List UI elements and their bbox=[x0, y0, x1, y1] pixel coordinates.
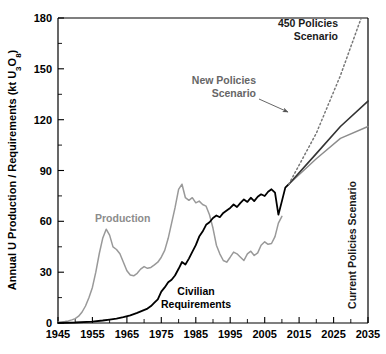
x-tick-label-1965: 1965 bbox=[115, 328, 139, 340]
uranium-production-requirements-chart: 0 30 60 90 120 150 180 bbox=[0, 0, 386, 354]
y-tick-label-60: 60 bbox=[40, 215, 52, 227]
y-tick-label-90: 90 bbox=[40, 165, 52, 177]
y-axis-title-paren: ) bbox=[6, 49, 18, 53]
x-tick-label-2015: 2015 bbox=[287, 328, 311, 340]
y-tick-label-120: 120 bbox=[34, 114, 52, 126]
label-450-policies-line1: 450 Policies bbox=[278, 17, 338, 29]
x-tick-label-1955: 1955 bbox=[80, 328, 104, 340]
y-tick-label-150: 150 bbox=[34, 63, 52, 75]
x-tick-label-1995: 1995 bbox=[218, 328, 242, 340]
x-tick-label-1985: 1985 bbox=[184, 328, 208, 340]
x-tick-label-2025: 2025 bbox=[321, 328, 345, 340]
chart-container: 0 30 60 90 120 150 180 bbox=[0, 0, 386, 354]
label-current-policies-text: Current Policies Scenario bbox=[346, 181, 358, 309]
label-civilian-line1: Civilian bbox=[177, 285, 214, 297]
label-new-policies-line1: New Policies bbox=[192, 74, 256, 86]
label-new-policies-line2: Scenario bbox=[212, 87, 256, 99]
x-tick-label-1975: 1975 bbox=[149, 328, 173, 340]
label-450-policies-line2: Scenario bbox=[294, 30, 338, 42]
x-tick-label-2005: 2005 bbox=[252, 328, 276, 340]
label-current-policies-scenario: Current Policies Scenario bbox=[346, 181, 358, 309]
y-axis-title-main: Annual U Production / Requirements (kt U bbox=[6, 71, 18, 290]
label-civilian-line2: Requirements bbox=[161, 298, 231, 310]
x-tick-label-1945: 1945 bbox=[46, 328, 70, 340]
y-tick-label-30: 30 bbox=[40, 266, 52, 278]
x-tick-label-2035: 2035 bbox=[356, 328, 380, 340]
label-production: Production bbox=[95, 212, 150, 224]
y-tick-label-180: 180 bbox=[34, 12, 52, 24]
